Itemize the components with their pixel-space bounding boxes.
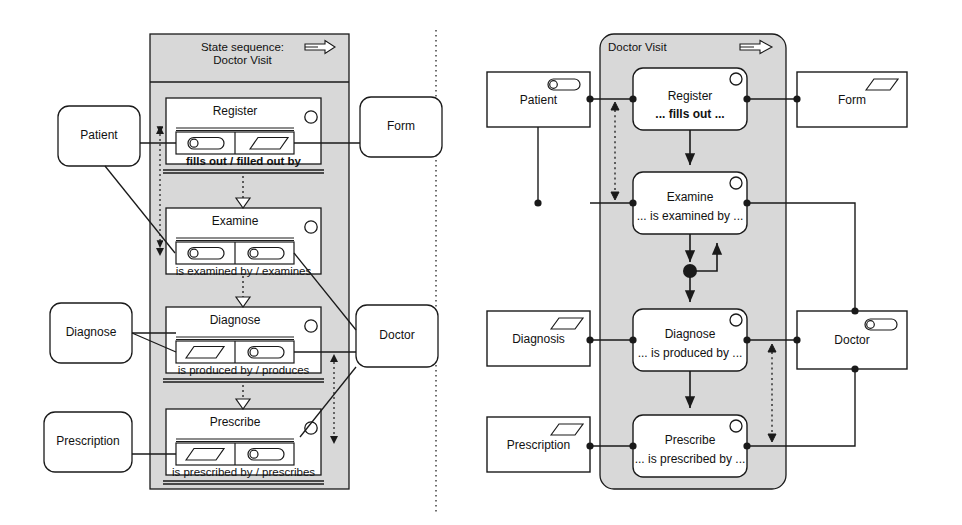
left-state-prescribe (163, 409, 324, 484)
capsule-actor-icon-examine-left (188, 248, 224, 260)
left-ext-patient-box (58, 106, 140, 166)
capsule-actor-icon-examine-right (248, 248, 284, 260)
left-state-examine (166, 208, 321, 274)
circle-icon-examine (305, 221, 317, 233)
left-state-register (163, 98, 324, 173)
diagram-vector-layer (0, 0, 962, 525)
circle-icon-diagnose (305, 320, 317, 332)
capsule-actor-icon-prescribe (248, 449, 284, 461)
capsule-actor-icon-diagnose (248, 347, 284, 359)
left-ext-doctor-box (356, 305, 438, 367)
left-ext-prescription-box (44, 412, 132, 472)
right-panel-group (487, 34, 907, 489)
circle-icon-examine-r (730, 177, 742, 189)
filled-circle-junction (683, 264, 697, 278)
capsule-actor-icon-doctor-r (865, 319, 897, 330)
circle-icon-diagnose-r (730, 314, 742, 326)
capsule-actor-icon-patient-r (548, 79, 580, 90)
left-panel-group (44, 34, 442, 489)
left-state-diagnose (163, 307, 324, 382)
circle-icon-prescribe-r (730, 420, 742, 432)
diagram-root: State sequence: Doctor Visit Patient For… (0, 0, 962, 525)
left-ext-diagnose-box (50, 303, 132, 363)
circle-icon-register (305, 111, 317, 123)
capsule-actor-icon-register (188, 138, 224, 150)
circle-icon-register-r (730, 73, 742, 85)
left-ext-form-box (360, 97, 442, 157)
